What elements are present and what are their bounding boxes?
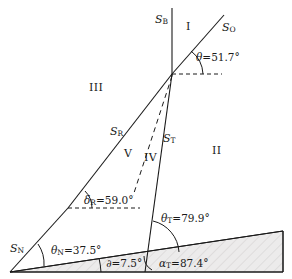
line-so [172,15,224,74]
label-st: ST [163,133,176,145]
arc-theta-n [38,244,44,266]
label-sb: SB [155,14,168,26]
angle-theta-t: θT=79.9° [161,213,210,225]
angle-theta: θ=51.7° [196,52,240,63]
label-sr: SR [110,126,123,138]
region-iv: IV [144,152,157,163]
geometry-figure: SB SO SR ST SN I II III IV V θ=51.7° δR=… [0,0,292,279]
region-ii: II [212,145,222,156]
angle-delta-r: δR=59.0° [84,195,133,207]
region-iii: III [89,82,103,93]
region-v: V [124,148,132,159]
line-sr-lower [10,208,68,272]
figure-canvas [0,0,292,279]
angle-alpha-t: αT=87.4° [159,258,209,270]
label-sn: SN [10,243,24,255]
label-so: SO [222,22,236,34]
angle-theta-n: θN=37.5° [51,245,101,257]
angle-partial: ∂=7.5° [106,258,142,269]
region-i: I [186,21,191,32]
